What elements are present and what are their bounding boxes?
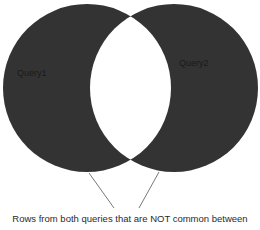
pointer-line-right — [139, 172, 159, 208]
query2-label: Query2 — [179, 58, 209, 68]
diagram-caption: Rows from both queries that are NOT comm… — [0, 213, 260, 224]
venn-diagram — [0, 0, 260, 230]
query1-label: Query1 — [17, 68, 47, 78]
pointer-line-left — [89, 173, 114, 208]
